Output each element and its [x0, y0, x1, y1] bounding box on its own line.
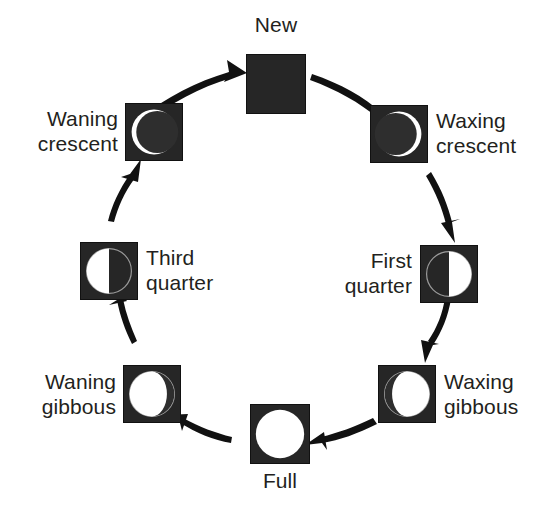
arrow-first-quarter-to-waxing-gibbous	[421, 297, 451, 363]
phase-tile-third-quarter[interactable]	[80, 242, 138, 300]
phase-tile-first-quarter[interactable]	[420, 245, 478, 303]
arrow-third-quarter-to-waning-crescent	[108, 159, 141, 222]
phase-tile-waxing-gibbous[interactable]	[378, 365, 436, 423]
moon-disc-waning-crescent	[126, 104, 182, 160]
phase-label-new: New	[226, 12, 326, 37]
moon-disc-waxing-gibbous	[379, 366, 435, 422]
arrow-waxing-gibbous-to-full	[305, 418, 377, 450]
phase-tile-waning-crescent[interactable]	[125, 103, 183, 161]
moon-disc-new	[247, 55, 305, 113]
phase-label-waxing-crescent: Waxing crescent	[436, 108, 551, 158]
phase-tile-new[interactable]	[246, 54, 306, 114]
moon-disc-waxing-crescent	[371, 106, 427, 162]
arrow-waxing-crescent-to-first-quarter	[426, 172, 460, 243]
moon-disc-third-quarter	[81, 243, 137, 299]
moon-disc-first-quarter	[421, 246, 477, 302]
phase-label-first-quarter: First quarter	[296, 248, 412, 298]
moon-phases-diagram: New Waxing crescent First quarter Waxing…	[0, 0, 553, 513]
phase-tile-waning-gibbous[interactable]	[123, 365, 181, 423]
phase-tile-waxing-crescent[interactable]	[370, 105, 428, 163]
phase-label-waning-crescent: Waning crescent	[4, 106, 118, 156]
moon-disc-full	[251, 405, 309, 463]
phase-label-waxing-gibbous: Waxing gibbous	[444, 369, 553, 419]
phase-tile-full[interactable]	[250, 404, 310, 464]
phase-label-full: Full	[230, 468, 330, 493]
phase-label-waning-gibbous: Waning gibbous	[2, 369, 116, 419]
moon-disc-waning-gibbous	[124, 366, 180, 422]
phase-label-third-quarter: Third quarter	[146, 245, 262, 295]
